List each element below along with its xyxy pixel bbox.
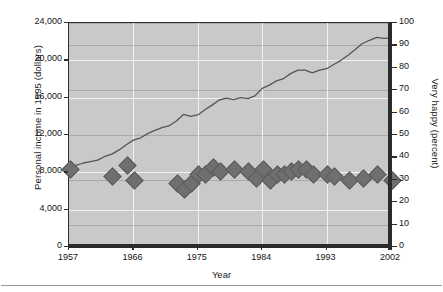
y-axis-left-tick bbox=[64, 59, 68, 60]
income-line-series bbox=[69, 23, 391, 247]
x-axis-tick bbox=[68, 246, 69, 250]
y-axis-right-tick bbox=[392, 67, 397, 68]
x-axis-tick-label: 1966 bbox=[104, 252, 160, 262]
y-axis-right-tick bbox=[392, 156, 397, 157]
y-axis-left-tick-label: 16,000 bbox=[2, 91, 62, 101]
y-axis-left-tick bbox=[64, 134, 68, 135]
x-axis-tick bbox=[197, 246, 198, 250]
y-axis-right-tick bbox=[392, 112, 397, 113]
y-axis-right-tick-label: 50 bbox=[399, 128, 433, 138]
y-axis-left-tick-label: 20,000 bbox=[2, 53, 62, 63]
y-axis-right-tick bbox=[392, 134, 397, 135]
y-axis-right-tick-label: 60 bbox=[399, 106, 433, 116]
y-axis-right-tick-label: 30 bbox=[399, 173, 433, 183]
x-axis-tick bbox=[326, 246, 327, 250]
y-axis-left-tick bbox=[64, 171, 68, 172]
x-axis-tick-label: 1957 bbox=[40, 252, 96, 262]
y-axis-left-tick-label: 0 bbox=[2, 240, 62, 250]
y-axis-right-tick bbox=[392, 201, 397, 202]
y-axis-left-tick-label: 24,000 bbox=[2, 16, 62, 26]
y-axis-right-tick-label: 40 bbox=[399, 150, 433, 160]
y-axis-right-tick bbox=[392, 224, 397, 225]
y-axis-right-tick-label: 10 bbox=[399, 218, 433, 228]
y-axis-left-tick-label: 12,000 bbox=[2, 128, 62, 138]
y-axis-right-tick-label: 80 bbox=[399, 61, 433, 71]
y-axis-left-tick bbox=[64, 22, 68, 23]
chart-figure: Personal income in 1995 (dollars) Very h… bbox=[0, 0, 443, 292]
y-axis-right-tick-label: 90 bbox=[399, 38, 433, 48]
y-axis-left-tick-label: 4,000 bbox=[2, 203, 62, 213]
y-axis-right-tick-label: 100 bbox=[399, 16, 433, 26]
x-axis-tick-label: 1984 bbox=[233, 252, 289, 262]
x-axis-title: Year bbox=[0, 269, 443, 280]
right-spine bbox=[388, 22, 392, 250]
y-axis-left-tick bbox=[64, 97, 68, 98]
y-axis-right-tick bbox=[392, 179, 397, 180]
y-axis-right-tick-label: 70 bbox=[399, 83, 433, 93]
y-axis-right-tick-label: 0 bbox=[399, 240, 433, 250]
bottom-spine bbox=[68, 244, 392, 248]
x-axis-tick bbox=[390, 246, 391, 250]
x-axis-tick bbox=[261, 246, 262, 250]
y-axis-left-tick-label: 8,000 bbox=[2, 165, 62, 175]
plot-area bbox=[68, 22, 390, 246]
y-axis-right-tick bbox=[392, 22, 397, 23]
x-axis-tick-label: 2002 bbox=[362, 252, 418, 262]
x-axis-tick bbox=[132, 246, 133, 250]
y-axis-left-tick bbox=[64, 209, 68, 210]
y-axis-right-tick bbox=[392, 246, 397, 247]
y-axis-left-title: Personal income in 1995 (dollars) bbox=[32, 3, 43, 233]
y-axis-right-tick-label: 20 bbox=[399, 195, 433, 205]
y-axis-right-tick bbox=[392, 89, 397, 90]
x-axis-tick-label: 1975 bbox=[169, 252, 225, 262]
footer-rule bbox=[1, 285, 442, 286]
y-axis-right-tick bbox=[392, 44, 397, 45]
x-axis-tick-label: 1993 bbox=[298, 252, 354, 262]
